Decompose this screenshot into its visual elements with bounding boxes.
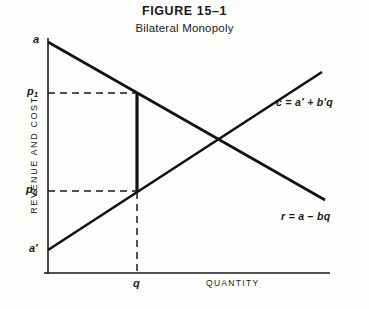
- cost-curve: [48, 72, 322, 250]
- figure-container: FIGURE 15–1 Bilateral Monopoly REVENUE A…: [0, 0, 369, 309]
- plot-area: [0, 0, 369, 309]
- revenue-curve: [48, 42, 325, 200]
